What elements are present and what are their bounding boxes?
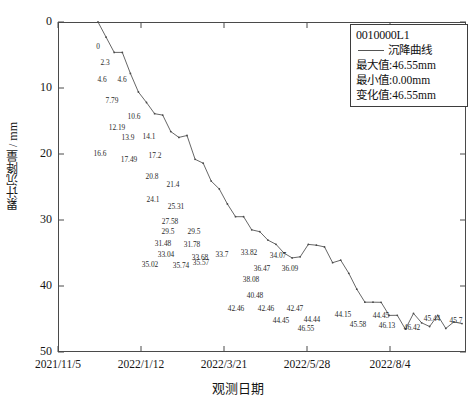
data-point-label: 33.04 [158, 250, 175, 259]
data-point-label: 25.31 [168, 202, 185, 211]
data-point-marker [170, 131, 172, 133]
y-tick-label: 10 [18, 80, 52, 95]
data-point-marker [332, 262, 334, 264]
data-point-marker [178, 137, 180, 139]
y-tick-label: 40 [18, 278, 52, 293]
data-point-label: 16.6 [94, 149, 107, 158]
x-tick-label: 2022/3/21 [201, 358, 248, 370]
data-point-marker [218, 188, 220, 190]
data-point-marker [146, 102, 148, 104]
data-point-label: 31.48 [155, 239, 172, 248]
legend-id: 0010000L1 [356, 28, 463, 43]
data-point-marker [380, 301, 382, 303]
x-tick-label: 2022/5/28 [284, 358, 331, 370]
y-tick-label: 20 [18, 146, 52, 161]
data-point-label: 29.5 [188, 227, 201, 236]
data-point-label: 44.45 [373, 311, 390, 320]
data-point-marker [356, 288, 358, 290]
data-point-marker [194, 158, 196, 160]
data-point-marker [267, 239, 269, 241]
data-point-label: 46.42 [404, 323, 421, 332]
legend-change-value: 变化值:46.55mm [356, 88, 463, 103]
data-point-label: 33.7 [216, 250, 229, 259]
data-point-label: 24.1 [147, 195, 160, 204]
data-point-marker [130, 73, 132, 75]
data-point-label: 42.47 [287, 304, 304, 313]
y-tick-label: 50 [18, 344, 52, 359]
y-tick-label: 0 [18, 14, 52, 29]
data-point-marker [259, 231, 261, 233]
data-point-label: 33.82 [241, 248, 258, 257]
data-point-marker [316, 244, 318, 246]
x-tick-label: 2022/8/4 [370, 358, 411, 370]
data-point-marker [372, 301, 374, 303]
legend-series-label: 沉降曲线 [388, 43, 432, 58]
data-point-marker [348, 272, 350, 274]
data-point-marker [429, 326, 431, 328]
data-point-marker [113, 52, 115, 54]
data-point-label: 4.6 [97, 75, 106, 84]
data-point-marker [291, 257, 293, 259]
data-point-marker [396, 314, 398, 316]
data-point-marker [445, 328, 447, 330]
data-point-label: 4.6 [117, 75, 126, 84]
data-point-label: 42.46 [228, 304, 245, 313]
legend-line-swatch [358, 50, 384, 51]
data-point-marker [105, 36, 107, 38]
x-tick-label: 2021/11/5 [35, 358, 81, 370]
x-axis-title: 观测日期 [0, 378, 476, 397]
y-axis-title: 累计沉降量 / mm [4, 122, 24, 210]
data-point-label: 21.4 [167, 180, 180, 189]
data-point-label: 45.58 [350, 320, 367, 329]
chart-root: 累计沉降量 / mm 观测日期 01020304050 2021/11/5202… [0, 0, 476, 404]
data-point-label: 35.02 [142, 260, 159, 269]
data-point-marker [364, 301, 366, 303]
data-point-label: 14.1 [143, 132, 156, 141]
data-point-label: 31.78 [184, 240, 201, 249]
data-point-label: 36.47 [254, 264, 271, 273]
legend-max-value: 最大值:46.55mm [356, 58, 463, 73]
data-point-label: 46.13 [379, 321, 396, 330]
data-point-marker [210, 180, 212, 182]
data-point-marker [154, 113, 156, 115]
data-point-label: 46.55 [298, 324, 315, 333]
legend-series-entry: 沉降曲线 [356, 43, 463, 58]
data-point-marker [202, 162, 204, 164]
data-point-marker [275, 243, 277, 245]
data-point-label: 35.74 [173, 261, 190, 270]
data-point-label: 12.19 [109, 123, 126, 132]
data-point-label: 42.46 [258, 304, 275, 313]
data-point-marker [307, 244, 309, 246]
data-point-label: 44.45 [273, 316, 290, 325]
data-point-label: 17.2 [149, 151, 162, 160]
data-point-marker [299, 256, 301, 258]
data-point-label: 20.8 [146, 172, 159, 181]
data-point-marker [227, 203, 229, 205]
x-tick-label: 2022/1/12 [118, 358, 165, 370]
data-point-marker [413, 313, 415, 315]
y-tick-label: 30 [18, 212, 52, 227]
data-point-label: 38.08 [243, 275, 260, 284]
data-point-marker [324, 246, 326, 248]
data-point-label: 27.58 [162, 217, 179, 226]
data-point-marker [421, 322, 423, 324]
data-point-marker [235, 216, 237, 218]
legend-min-value: 最小值:0.00mm [356, 73, 463, 88]
data-point-label: 35.57 [193, 258, 210, 267]
data-point-marker [186, 135, 188, 137]
data-point-label: 45.7 [450, 316, 463, 325]
data-point-label: 0 [96, 42, 100, 51]
data-point-label: 7.79 [106, 96, 119, 105]
data-point-label: 40.48 [247, 291, 264, 300]
data-point-label: 13.9 [122, 133, 135, 142]
data-point-marker [162, 114, 164, 116]
data-point-label: 44.15 [335, 310, 352, 319]
data-point-label: 17.49 [121, 155, 138, 164]
data-point-marker [121, 52, 123, 54]
data-point-label: 10.6 [128, 112, 141, 121]
data-point-label: 44.44 [304, 315, 321, 324]
data-point-label: 34.07 [270, 251, 287, 260]
data-point-marker [340, 259, 342, 261]
data-point-label: 36.09 [282, 264, 299, 273]
data-point-label: 45.44 [424, 314, 441, 323]
